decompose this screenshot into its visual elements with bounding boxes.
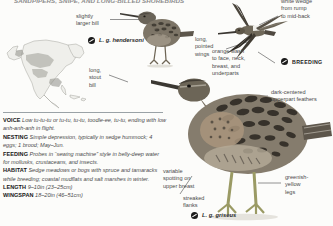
species-details-block: VOICE Low tu-tu-tu or tu-tu, tu-tu, tood…: [3, 112, 167, 224]
detail-wingspan: WINGSPAN 18–20in (46–51cm): [3, 191, 167, 199]
detail-habitat: HABITAT Sedge meadows or bogs with spruc…: [3, 166, 167, 183]
detail-label: LENGTH: [3, 184, 26, 190]
callout-streaked-flanks: streaked flanks: [183, 195, 204, 210]
callout-white-wedge-rump: white wedge from rump to mid-back: [281, 0, 312, 20]
callout-long-stout-bill: long, stout bill: [89, 67, 101, 89]
plumage-dot-icon: [88, 37, 95, 44]
callout-variable-spotting: variable spotting on upper breast: [163, 168, 194, 190]
divider: [3, 112, 163, 113]
range-map: [4, 33, 90, 111]
detail-label: WINGSPAN: [3, 192, 34, 198]
detail-label: NESTING: [3, 134, 28, 140]
callout-greenish-yellow-legs: greenish- yellow legs: [285, 174, 308, 196]
callout-dark-centered-feathers: dark-centered upperpart feathers: [271, 89, 317, 104]
callout-slightly-larger-bill: slightly larger bill: [76, 13, 99, 28]
range-map-graphic: [4, 33, 90, 111]
detail-length: LENGTH 9–10in (23–25cm): [3, 183, 167, 191]
detail-value: 18–20in (46–51cm): [35, 192, 83, 198]
detail-value: 9–10in (23–25cm): [28, 184, 73, 190]
illustration-dowitcher-griseus: [150, 56, 333, 224]
detail-value: Low tu-tu-tu or tu-tu, tu-tu, toodle-ee,…: [3, 117, 166, 131]
callout-orange-wash: orange wash to face, neck, breast, and u…: [212, 48, 245, 77]
detail-voice: VOICE Low tu-tu-tu or tu-tu, tu-tu, tood…: [3, 116, 167, 133]
detail-value: Sedge meadows or bogs with spruce and ta…: [3, 167, 157, 181]
field-guide-page: SANDPIPERS, SNIPE, AND LONG-BILLED SHORE…: [0, 0, 333, 226]
detail-label: VOICE: [3, 117, 21, 123]
subspecies-hendersoni: L. g. hendersoni: [99, 37, 144, 43]
subspecies-griseus: L. g. griseus: [202, 212, 236, 218]
detail-label: HABITAT: [3, 167, 27, 173]
status-badge: BREEDING: [292, 59, 323, 65]
detail-feeding: FEEDING Probes in “sewing machine” style…: [3, 150, 167, 167]
callout-long-pointed-wings: long, pointed wings: [195, 36, 213, 58]
detail-label: FEEDING: [3, 151, 28, 157]
detail-nesting: NESTING Simple depression, typically in …: [3, 133, 167, 150]
